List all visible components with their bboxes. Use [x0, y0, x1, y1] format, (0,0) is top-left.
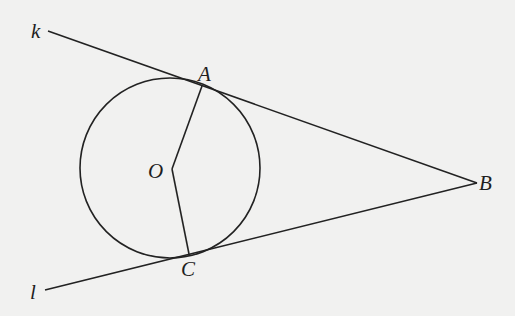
tangent-line-k	[48, 31, 477, 183]
segment-oc	[172, 169, 189, 254]
geometry-diagram: k l A O C B	[0, 0, 515, 316]
tangent-line-l	[45, 183, 477, 290]
label-b: B	[479, 171, 492, 195]
label-c: C	[181, 257, 196, 281]
label-o: O	[148, 159, 163, 183]
circle-o	[80, 78, 260, 258]
label-l: l	[30, 280, 36, 304]
label-k: k	[31, 19, 41, 43]
diagram-svg: k l A O C B	[0, 0, 515, 316]
label-a: A	[196, 62, 211, 86]
segment-oa	[172, 86, 202, 169]
